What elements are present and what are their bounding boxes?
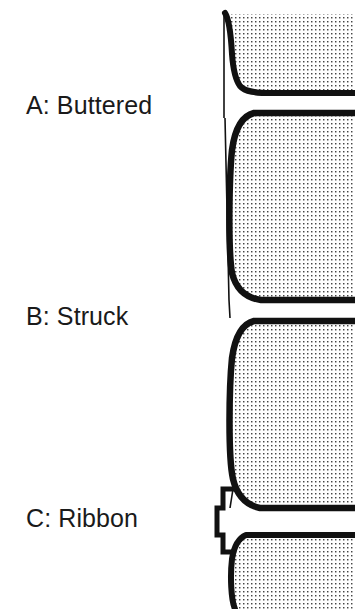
envelope-fill-a: [226, 14, 355, 92]
trace-label-c: C: Ribbon: [26, 506, 138, 531]
envelope-fill-b-lower: [230, 322, 355, 507]
envelope-band-c: [231, 535, 355, 609]
envelope-band-b-lower: [230, 321, 355, 508]
trace-label-a: A: Buttered: [26, 93, 152, 118]
envelope-notch-c: [217, 489, 236, 552]
figure-root: A: Buttered B: Struck C: Ribbon: [0, 0, 355, 609]
trace-label-b: B: Struck: [26, 304, 128, 329]
waveform-panel: [214, 0, 355, 609]
baseline-hairline-c: [230, 489, 233, 508]
envelope-step-c: [217, 489, 236, 552]
envelope-fill-b-upper: [229, 114, 355, 299]
label-column: A: Buttered B: Struck C: Ribbon: [0, 0, 220, 609]
envelope-fill-c: [231, 536, 355, 609]
envelope-band-a: [225, 13, 355, 93]
envelope-band-b-upper: [229, 113, 355, 300]
waveform-svg: [214, 0, 355, 609]
